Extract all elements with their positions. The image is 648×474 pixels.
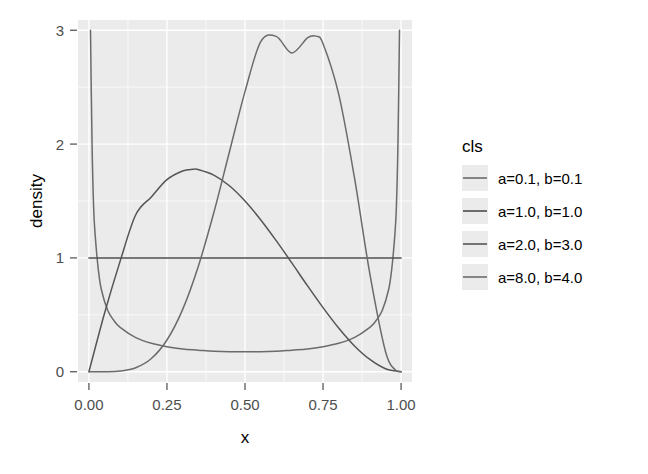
x-tick-label: 0.50 (230, 396, 259, 413)
chart-canvas: 0123 0.000.250.500.751.00 density x cls … (0, 0, 648, 474)
legend-item-label: a=0.1, b=0.1 (498, 170, 582, 187)
y-tick-label: 1 (56, 249, 64, 266)
y-tick-label: 0 (56, 363, 64, 380)
y-tick-label: 3 (56, 22, 64, 39)
x-tick-label: 0.25 (152, 396, 181, 413)
legend-item-label: a=1.0, b=1.0 (498, 203, 582, 220)
x-tick-label: 0.00 (74, 396, 103, 413)
x-tick-label: 1.00 (386, 396, 415, 413)
legend-item-label: a=2.0, b=3.0 (498, 236, 582, 253)
y-tick-label: 2 (56, 136, 64, 153)
plot-panel (78, 20, 412, 382)
x-axis-title: x (241, 428, 250, 447)
y-axis-title: density (27, 174, 46, 228)
legend-item-label: a=8.0, b=4.0 (498, 269, 582, 286)
legend-title: cls (462, 137, 483, 156)
x-tick-label: 0.75 (308, 396, 337, 413)
beta-density-chart: 0123 0.000.250.500.751.00 density x cls … (0, 0, 648, 474)
